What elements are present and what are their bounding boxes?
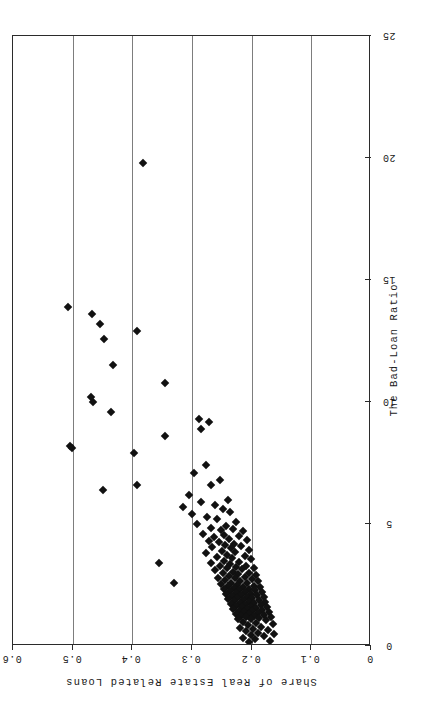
- data-point: [199, 530, 207, 538]
- y-axis-tick: [131, 645, 132, 650]
- data-point: [207, 481, 215, 489]
- data-point: [155, 559, 163, 567]
- y-axis-tick-label: 0.5: [52, 652, 92, 664]
- y-axis-tick-label: 0.2: [231, 652, 271, 664]
- data-point: [161, 432, 169, 440]
- x-axis-tick: [365, 35, 371, 36]
- y-axis-tick: [12, 645, 13, 650]
- data-point: [197, 425, 205, 433]
- data-point: [161, 378, 169, 386]
- data-point: [210, 500, 218, 508]
- y-axis-title: Share of Real Estate Related Loans: [0, 676, 382, 688]
- x-axis-tick: [365, 157, 371, 158]
- y-axis-tick: [72, 645, 73, 650]
- data-point: [203, 512, 211, 520]
- x-axis-tick-label: 25: [374, 28, 404, 42]
- data-point: [270, 630, 278, 638]
- data-point: [202, 549, 210, 557]
- data-point: [207, 523, 215, 531]
- y-axis-tick-label: 0.4: [111, 652, 151, 664]
- data-point: [247, 555, 255, 563]
- x-axis-tick: [365, 401, 371, 402]
- y-axis-tick: [191, 645, 192, 650]
- y-axis-tick-label: 0.1: [290, 652, 330, 664]
- plot-area: [12, 35, 370, 645]
- data-point: [138, 159, 146, 167]
- data-point: [201, 461, 209, 469]
- data-point: [109, 361, 117, 369]
- x-axis-tick-label: 0: [374, 638, 404, 652]
- data-point: [204, 417, 212, 425]
- y-axis-tick-label: 0.6: [0, 652, 32, 664]
- y-axis-tick: [310, 645, 311, 650]
- data-point: [107, 408, 115, 416]
- x-axis-tick-label: 5: [374, 516, 404, 530]
- data-point: [208, 543, 216, 551]
- data-point: [243, 536, 251, 544]
- data-point: [132, 327, 140, 335]
- data-point: [224, 495, 232, 503]
- data-point: [213, 515, 221, 523]
- data-point: [64, 303, 72, 311]
- data-point: [100, 334, 108, 342]
- x-axis-tick: [365, 645, 371, 646]
- x-axis-tick: [365, 523, 371, 524]
- data-point: [185, 490, 193, 498]
- data-point: [178, 503, 186, 511]
- data-points-layer: [13, 36, 369, 644]
- x-axis-title-wrap: The Bad-Loan Ratio: [386, 250, 402, 450]
- data-point: [190, 469, 198, 477]
- data-point: [194, 415, 202, 423]
- data-point: [95, 320, 103, 328]
- data-point: [129, 449, 137, 457]
- data-point: [188, 510, 196, 518]
- data-point: [133, 481, 141, 489]
- y-axis-tick: [251, 645, 252, 650]
- y-axis-tick-label: 0.3: [171, 652, 211, 664]
- data-point: [170, 578, 178, 586]
- x-axis-tick-label: 20: [374, 150, 404, 164]
- data-point: [99, 486, 107, 494]
- data-point: [193, 520, 201, 528]
- scatter-plot-figure: 00.10.20.30.40.50.6 0510152025 Share of …: [0, 0, 424, 701]
- y-axis-tick-label: 0: [350, 652, 390, 664]
- data-point: [216, 476, 224, 484]
- data-point: [88, 310, 96, 318]
- data-point: [67, 444, 75, 452]
- x-axis-title: The Bad-Loan Ratio: [388, 283, 400, 416]
- data-point: [197, 498, 205, 506]
- data-point: [226, 508, 234, 516]
- x-axis-tick: [365, 279, 371, 280]
- data-point: [89, 398, 97, 406]
